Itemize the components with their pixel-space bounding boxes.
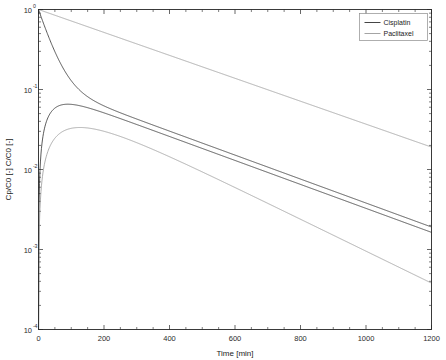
figure-container: 02004006008001000120010010-110-210-310-4… — [0, 0, 446, 360]
x-tick-label: 200 — [98, 334, 111, 343]
x-axis-label: Time [min] — [216, 349, 253, 358]
axes-background — [39, 10, 432, 330]
y-tick-label: 10 — [24, 6, 32, 15]
y-tick-exponent: -3 — [33, 243, 38, 249]
y-axis-label: Cp/C0 [-] C/C0 [-] — [4, 139, 13, 201]
y-tick-exponent: -1 — [33, 83, 38, 89]
x-tick-label: 1000 — [358, 334, 375, 343]
x-tick-label: 600 — [229, 334, 242, 343]
x-tick-label: 800 — [294, 334, 307, 343]
y-tick-label: 10 — [24, 86, 32, 95]
plot-background — [0, 0, 446, 360]
y-tick-exponent: -2 — [33, 163, 38, 169]
x-tick-label: 0 — [36, 334, 40, 343]
chart-canvas: 02004006008001000120010010-110-210-310-4… — [0, 0, 446, 360]
legend[interactable]: CisplatinPaclitaxel — [360, 14, 428, 41]
x-tick-label: 400 — [163, 334, 176, 343]
y-tick-label: 10 — [24, 326, 32, 335]
x-tick-label: 1200 — [423, 334, 440, 343]
y-tick-label: 10 — [24, 166, 32, 175]
y-tick-label: 10 — [24, 246, 32, 255]
legend-label-cisplatin: Cisplatin — [384, 19, 411, 27]
y-tick-exponent: -4 — [33, 323, 38, 329]
y-tick-exponent: 0 — [33, 3, 36, 9]
legend-label-paclitaxel: Paclitaxel — [384, 30, 414, 37]
